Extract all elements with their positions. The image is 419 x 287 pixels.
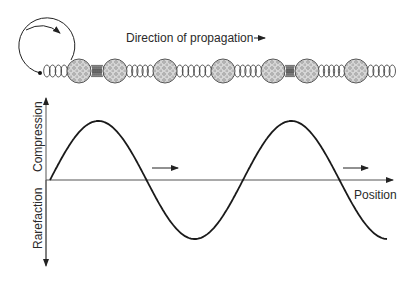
bead-texture: [262, 60, 285, 83]
bead-texture: [296, 60, 319, 83]
spring-coil: [328, 65, 334, 77]
bead-texture: [212, 60, 235, 83]
propagation-label: Direction of propagation: [126, 32, 253, 44]
bead-chain: [67, 59, 368, 83]
spring-coil: [323, 65, 329, 77]
rarefaction-label: Rarefaction: [32, 188, 44, 249]
bead-texture: [68, 60, 91, 83]
compression-label: Compression: [32, 101, 44, 172]
x-axis-label: Position: [354, 189, 397, 201]
bead-texture: [104, 60, 127, 83]
bead-texture: [154, 60, 177, 83]
bead-texture: [345, 60, 368, 83]
longitudinal-wave-diagram: Direction of propagation Position Compre…: [0, 0, 419, 287]
spring-coil: [333, 65, 339, 77]
